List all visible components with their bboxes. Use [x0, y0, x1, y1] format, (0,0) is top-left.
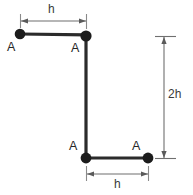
joint-dot-top-left: [15, 29, 26, 40]
joint-label-top-left: A: [7, 41, 15, 54]
joint-dot-bottom-right: [143, 153, 154, 164]
arrow-head-bottom-left: [87, 171, 94, 176]
joint-label-bottom-left: A: [69, 140, 77, 153]
dimension-label-bottom-h: h: [114, 178, 121, 190]
diagram-canvas: [0, 0, 193, 195]
dimension-label-right-2h: 2h: [168, 88, 181, 100]
arrow-head-right-top: [161, 37, 166, 44]
arrow-head-bottom-right: [141, 171, 148, 176]
joint-dot-bottom-left: [81, 153, 92, 164]
frame-diagram: A A A A h 2h h: [0, 0, 193, 195]
arrow-head-top-left: [21, 18, 28, 23]
arrow-head-right-bottom: [161, 151, 166, 158]
dimension-top-h: [21, 14, 87, 29]
member-top-horizontal: [20, 34, 87, 35]
joint-dot-top-right: [80, 30, 91, 41]
member-group: [20, 34, 148, 158]
joint-label-top-right: A: [71, 42, 79, 55]
joint-label-bottom-right: A: [132, 140, 140, 153]
arrow-head-top-right: [79, 18, 86, 23]
dimension-label-top-h: h: [48, 3, 55, 15]
